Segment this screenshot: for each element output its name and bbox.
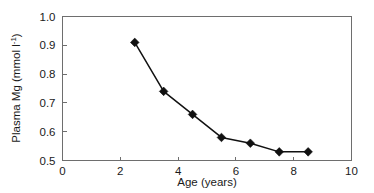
y-axis-title: Plasma Mg (mmol l-1) (9, 33, 23, 143)
y-axis-title-tail: ) (10, 33, 22, 37)
chart-container: 0246810 0.50.60.70.80.91.0 Age (years) P… (0, 0, 374, 193)
x-tick-label: 8 (290, 165, 296, 177)
x-axis-title: Age (years) (177, 176, 237, 188)
y-axis-title-main: Plasma Mg (mmol l (10, 44, 22, 142)
y-tick-label: 0.7 (40, 97, 56, 109)
x-tick-label: 6 (233, 165, 239, 177)
x-tick-label: 4 (175, 165, 182, 177)
plasma-mg-vs-age-chart: 0246810 0.50.60.70.80.91.0 Age (years) P… (0, 0, 374, 193)
x-tick-label: 2 (117, 165, 123, 177)
y-tick-label: 0.5 (40, 155, 56, 167)
y-tick-label: 0.9 (40, 39, 56, 51)
chart-background (0, 0, 374, 193)
y-tick-label: 0.8 (40, 68, 56, 80)
x-tick-label: 0 (59, 165, 65, 177)
y-tick-label: 0.6 (40, 126, 56, 138)
y-tick-label: 1.0 (40, 11, 56, 23)
x-tick-label: 10 (345, 165, 358, 177)
